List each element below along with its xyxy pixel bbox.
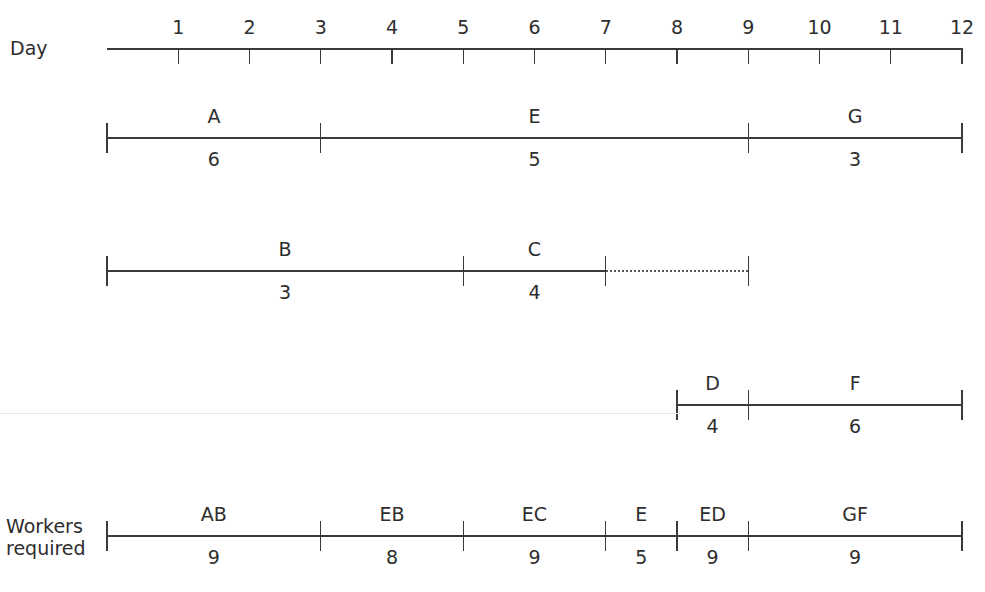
axis-tick [819,48,820,64]
boundary-tick [106,123,107,153]
axis-tick [534,48,535,64]
workers-segment-bar [321,535,464,537]
activity-name: B [279,240,292,259]
boundary-tick [748,521,749,551]
activity-name: G [848,107,863,126]
boundary-tick [961,521,962,551]
activity-name: E [528,107,540,126]
workers-segment-bar [748,535,962,537]
activity-name: F [850,374,861,393]
activity-name: D [705,374,720,393]
day-axis-label: Day [10,38,48,60]
activity-bar [321,137,749,139]
boundary-tick [961,123,962,153]
workers-segment-name: EC [522,505,547,524]
activity-bar [107,270,463,272]
activity-bar [677,404,748,406]
workers-segment-value: 5 [635,548,647,567]
axis-tick-label: 11 [879,18,903,37]
axis-tick-label: 4 [386,18,398,37]
workers-segment-bar [606,535,677,537]
activity-name: A [207,107,220,126]
axis-tick-label: 12 [950,18,974,37]
workers-segment-value: 9 [849,548,861,567]
workers-segment-value: 8 [386,548,398,567]
axis-tick-label: 9 [742,18,754,37]
activity-bar [748,404,962,406]
boundary-tick [748,390,749,420]
boundary-tick [605,256,606,286]
axis-tick [391,48,392,64]
axis-tick [961,48,962,64]
boundary-tick [463,521,464,551]
workers-segment-value: 9 [707,548,719,567]
workers-label-line2: required [6,538,86,560]
boundary-tick [748,256,749,286]
activity-value: 4 [707,417,719,436]
activity-bar [748,137,962,139]
axis-tick-label: 5 [457,18,469,37]
boundary-tick [320,123,321,153]
boundary-tick [961,390,962,420]
boundary-tick [605,521,606,551]
workers-label-line1: Workers [6,516,86,538]
activity-value: 6 [208,150,220,169]
axis-tick [605,48,606,64]
workers-segment-bar [677,535,748,537]
workers-segment-name: E [635,505,647,524]
activity-schedule-diagram: Day 123456789101112 A6E5G3 B3C4 D4F6 Wor… [0,0,985,592]
axis-tick-label: 7 [600,18,612,37]
workers-segment-name: ED [699,505,726,524]
axis-tick-label: 6 [528,18,540,37]
axis-tick [178,48,179,64]
activity-value: 3 [279,283,291,302]
axis-tick-label: 2 [243,18,255,37]
axis-tick [676,48,677,64]
activity-value: 5 [528,150,540,169]
activity-name: C [528,240,541,259]
scan-artifact-line [0,413,680,414]
boundary-tick [106,521,107,551]
axis-tick-label: 8 [671,18,683,37]
activity-value: 6 [849,417,861,436]
axis-tick [463,48,464,64]
workers-segment-bar [107,535,321,537]
activity-value: 3 [849,150,861,169]
workers-segment-value: 9 [208,548,220,567]
workers-label: Workers required [6,516,86,560]
boundary-tick [748,123,749,153]
axis-tick-label: 3 [315,18,327,37]
workers-segment-bar [463,535,606,537]
axis-tick-label: 1 [172,18,184,37]
float-dotted-line [606,270,749,272]
workers-segment-name: AB [201,505,227,524]
axis-tick [320,48,321,64]
axis-tick-label: 10 [807,18,831,37]
boundary-tick [676,390,677,420]
workers-segment-name: GF [842,505,868,524]
boundary-tick [463,256,464,286]
workers-segment-value: 9 [528,548,540,567]
activity-bar [107,137,321,139]
boundary-tick [106,256,107,286]
workers-segment-name: EB [379,505,404,524]
activity-bar [463,270,606,272]
axis-tick [249,48,250,64]
activity-value: 4 [528,283,540,302]
boundary-tick [676,521,677,551]
axis-tick [748,48,749,64]
boundary-tick [320,521,321,551]
axis-tick [890,48,891,64]
